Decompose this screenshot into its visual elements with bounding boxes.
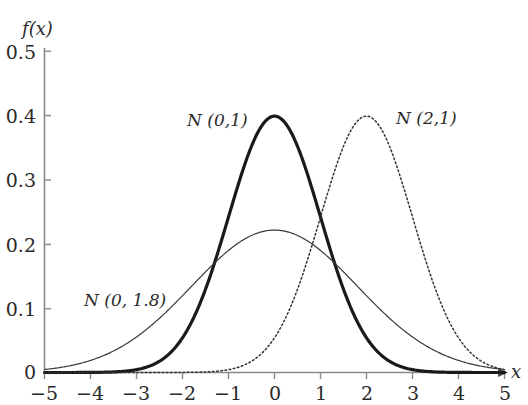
curve-standard-normal bbox=[45, 116, 505, 372]
x-tick-label-minus-2: −2 bbox=[168, 384, 196, 403]
x-tick-label-4: 4 bbox=[453, 384, 465, 403]
x-tick-label-3: 3 bbox=[407, 384, 419, 403]
y-tick-label-0-5: 0.5 bbox=[0, 43, 36, 62]
y-axis-title: f(x) bbox=[22, 20, 53, 38]
curve-shifted-normal bbox=[45, 116, 505, 372]
y-tick-label-0-1: 0.1 bbox=[0, 300, 36, 319]
y-tick-marks bbox=[45, 51, 52, 309]
x-tick-label-minus-3: −3 bbox=[122, 384, 150, 403]
x-tick-label-minus-4: −4 bbox=[76, 384, 104, 403]
y-tick-label-0-4: 0.4 bbox=[0, 107, 36, 126]
plot-canvas bbox=[0, 0, 528, 405]
y-tick-label-0: 0 bbox=[0, 363, 36, 382]
x-tick-label-minus-1: −1 bbox=[214, 384, 242, 403]
y-tick-label-0-2: 0.2 bbox=[0, 236, 36, 255]
x-axis-title: x bbox=[511, 363, 521, 381]
normal-distributions-chart: 0 0.1 0.2 0.3 0.4 0.5 −5 −4 −3 −2 −1 0 1… bbox=[0, 0, 528, 405]
x-tick-label-2: 2 bbox=[361, 384, 373, 403]
x-tick-label-5: 5 bbox=[499, 384, 511, 403]
data-curves bbox=[45, 116, 505, 372]
curve-label-shifted-normal: N (2,1) bbox=[396, 110, 457, 127]
curve-label-wide-normal: N (0, 1.8) bbox=[84, 292, 166, 309]
curve-label-standard-normal: N (0,1) bbox=[187, 112, 248, 129]
x-tick-label-1: 1 bbox=[315, 384, 327, 403]
y-tick-label-0-3: 0.3 bbox=[0, 171, 36, 190]
x-tick-label-minus-5: −5 bbox=[30, 384, 58, 403]
x-tick-label-0: 0 bbox=[269, 384, 281, 403]
